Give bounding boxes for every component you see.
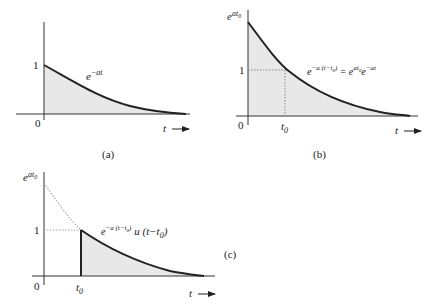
- curve-label: e−a (t−t0)u (t−t0): [101, 224, 168, 240]
- area-fill: [44, 65, 186, 114]
- x-tick-t0: t0: [76, 281, 83, 296]
- origin-label: 0: [35, 117, 41, 129]
- x-axis-label: t: [163, 122, 167, 134]
- panel-a: 1 0 e−at t (a): [16, 22, 190, 161]
- dotted-curve: [44, 183, 81, 230]
- origin-label: 0: [34, 280, 40, 292]
- curve-label: e−at: [86, 68, 103, 82]
- y-tick-1: 1: [33, 59, 39, 71]
- y-tick-1: 1: [34, 224, 40, 236]
- curve-label: e−a (t−t0)=eat0e−at: [307, 64, 377, 77]
- y-top-label: eat0: [227, 9, 241, 22]
- origin-label: 0: [238, 119, 244, 131]
- figure: 1 0 e−at t (a) eat0 1 0 t0 e−a (t−t0)=ea…: [0, 0, 431, 307]
- panel-b: eat0 1 0 t0 e−a (t−t0)=eat0e−at t (b): [227, 9, 421, 161]
- y-top-label: eat0: [23, 170, 37, 183]
- caption-b: (b): [313, 148, 326, 161]
- x-axis-label: t: [189, 287, 193, 299]
- y-tick-1: 1: [239, 64, 245, 76]
- x-axis-label: t: [395, 124, 399, 136]
- caption-a: (a): [102, 148, 115, 161]
- panel-c: eat0 1 0 t0 e−a (t−t0)u (t−t0) t (c): [23, 170, 237, 299]
- caption-c: (c): [224, 248, 237, 261]
- x-tick-t0: t0: [281, 120, 288, 135]
